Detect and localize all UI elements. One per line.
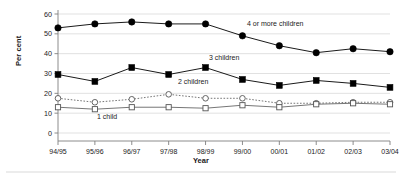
data-point-marker xyxy=(92,99,98,105)
data-point-marker xyxy=(92,107,97,112)
data-point-marker xyxy=(165,21,171,27)
data-point-marker xyxy=(129,65,135,71)
y-tick-labels-group: 0102030405060 xyxy=(44,10,52,138)
y-tick-label: 50 xyxy=(44,29,52,38)
x-tick-label: 97/98 xyxy=(160,148,178,155)
line-chart-plot: 0102030405060 94/9595/9696/9797/9898/999… xyxy=(0,0,402,176)
y-tick-label: 10 xyxy=(44,109,52,118)
data-point-marker xyxy=(129,96,135,102)
series-label: 4 or more children xyxy=(247,20,304,27)
x-tickmarks-group xyxy=(58,141,390,145)
data-point-marker xyxy=(239,33,245,39)
x-tick-label: 02/03 xyxy=(344,148,362,155)
data-point-marker xyxy=(387,84,393,90)
data-point-marker xyxy=(166,92,172,98)
data-point-marker xyxy=(314,102,319,107)
x-tick-label: 01/02 xyxy=(307,148,325,155)
data-point-marker xyxy=(313,78,319,84)
y-tick-label: 40 xyxy=(44,49,52,58)
data-point-marker xyxy=(313,49,319,55)
y-tick-label: 60 xyxy=(44,10,52,19)
series-lines-group xyxy=(58,22,390,109)
data-point-marker xyxy=(129,19,135,25)
data-point-marker xyxy=(351,101,356,106)
data-point-marker xyxy=(202,21,208,27)
data-point-marker xyxy=(166,72,172,78)
data-point-marker xyxy=(55,25,61,31)
data-point-marker xyxy=(350,46,356,52)
data-point-marker xyxy=(277,105,282,110)
data-point-marker xyxy=(276,83,282,89)
x-tick-label: 98/99 xyxy=(197,148,215,155)
data-point-marker xyxy=(203,95,209,101)
series-line xyxy=(58,94,390,103)
data-point-marker xyxy=(129,105,134,110)
series-label: 3 children xyxy=(209,54,239,61)
chart-figure: Per cent Year 0102030405060 94/9595/9696… xyxy=(0,0,402,176)
data-point-marker xyxy=(92,79,98,85)
data-point-marker xyxy=(166,105,171,110)
data-point-marker xyxy=(203,65,209,71)
y-tick-label: 30 xyxy=(44,69,52,78)
data-point-marker xyxy=(92,21,98,27)
x-tick-label: 96/97 xyxy=(123,148,141,155)
series-line xyxy=(58,103,390,109)
data-point-marker xyxy=(240,95,246,101)
series-label: 1 child xyxy=(97,113,117,120)
x-tick-label: 94/95 xyxy=(49,148,67,155)
data-point-marker xyxy=(203,106,208,111)
data-point-marker xyxy=(55,105,60,110)
data-point-marker xyxy=(240,103,245,108)
series-annotations-group: 4 or more children3 children2 children1 … xyxy=(97,20,304,120)
data-point-marker xyxy=(350,81,356,87)
x-tick-label: 99/00 xyxy=(234,148,252,155)
x-tick-label: 03/04 xyxy=(381,148,399,155)
data-point-marker xyxy=(55,72,61,78)
data-point-marker xyxy=(387,102,392,107)
y-tick-label: 0 xyxy=(48,129,52,138)
data-point-marker xyxy=(387,48,393,54)
x-tick-label: 95/96 xyxy=(86,148,104,155)
data-point-marker xyxy=(276,43,282,49)
x-tick-labels-group: 94/9595/9696/9797/9898/9999/0000/0101/02… xyxy=(49,148,399,155)
series-line xyxy=(58,68,390,88)
series-markers-group xyxy=(55,19,393,112)
series-line xyxy=(58,22,390,53)
x-tick-label: 00/01 xyxy=(271,148,289,155)
data-point-marker xyxy=(240,77,246,83)
y-tick-label: 20 xyxy=(44,89,52,98)
series-label: 2 children xyxy=(178,78,208,85)
data-point-marker xyxy=(55,95,61,101)
